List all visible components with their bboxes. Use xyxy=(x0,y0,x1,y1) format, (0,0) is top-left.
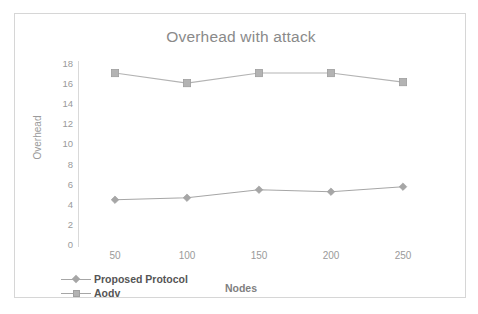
x-axis-tick-labels: 50100150200250 xyxy=(79,250,439,266)
data-point-marker xyxy=(255,186,263,194)
y-tick-label: 14 xyxy=(39,98,73,109)
y-tick-label: 10 xyxy=(39,138,73,149)
data-point-marker xyxy=(327,188,335,196)
data-point-marker xyxy=(399,79,406,86)
plot-area xyxy=(79,63,439,244)
x-tick-label: 150 xyxy=(229,250,289,261)
y-tick-label: 16 xyxy=(39,78,73,89)
x-tick-label: 250 xyxy=(373,250,433,261)
data-point-marker xyxy=(183,194,191,202)
legend-item[interactable]: Aodv xyxy=(61,286,188,300)
legend-item[interactable]: Proposed Protocol xyxy=(61,272,188,286)
y-tick-label: 0 xyxy=(39,239,73,250)
y-tick-label: 2 xyxy=(39,218,73,229)
legend-item-label: Proposed Protocol xyxy=(94,273,188,285)
x-tick-label: 200 xyxy=(301,250,361,261)
data-point-marker xyxy=(255,69,262,76)
data-point-marker xyxy=(399,183,407,191)
data-point-marker xyxy=(111,196,119,204)
x-tick-label: 100 xyxy=(157,250,217,261)
y-tick-label: 18 xyxy=(39,58,73,69)
legend-item-label: Aodv xyxy=(94,287,120,299)
x-tick-label: 50 xyxy=(85,250,145,261)
data-point-marker xyxy=(327,69,334,76)
y-tick-label: 12 xyxy=(39,118,73,129)
y-axis-label: Overhead xyxy=(32,88,43,188)
legend-square-marker-icon xyxy=(61,287,91,299)
legend-diamond-marker-icon xyxy=(61,273,91,285)
y-tick-label: 6 xyxy=(39,178,73,189)
y-tick-label: 4 xyxy=(39,198,73,209)
chart-figure: Overhead with attack 181614121086420 Ove… xyxy=(14,13,466,298)
data-point-marker xyxy=(111,69,118,76)
data-point-marker xyxy=(183,80,190,87)
series-canvas xyxy=(79,63,439,244)
chart-legend: Proposed ProtocolAodv xyxy=(61,272,188,300)
y-tick-label: 8 xyxy=(39,158,73,169)
chart-title: Overhead with attack xyxy=(15,28,467,46)
